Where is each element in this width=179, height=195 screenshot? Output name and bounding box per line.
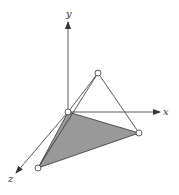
x-axis-label: x [163,106,169,117]
shaded-face [38,112,139,168]
edge-origin-apex [68,73,98,112]
z-axis-label: z [7,173,14,184]
vertex-z [35,165,41,171]
y-axis-label: y [65,8,72,19]
vertex-x [136,130,142,136]
tetrahedron-diagram: y x z [0,0,179,195]
vertex-origin [65,109,71,115]
vertex-apex [95,70,101,76]
